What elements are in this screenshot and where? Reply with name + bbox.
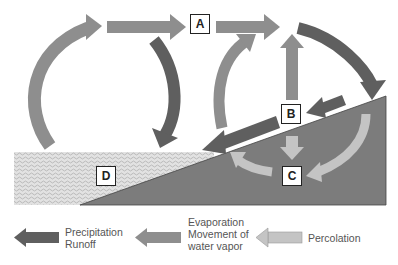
legend-light-arrow-icon [256,228,302,247]
legend-label: water vapor [188,240,249,252]
evaporation-arc-left-icon [34,14,102,146]
legend-label: Evaporation [188,216,249,228]
legend-dark-arrow-icon [14,228,59,247]
label-box-C: C [282,166,302,186]
label-box-A: A [190,14,210,34]
legend-label: Movement of [188,228,249,240]
ground-slope [80,96,386,205]
legend-item-evaporation: Evaporation Movement of water vapor [188,216,249,252]
legend-item-precipitation-runoff: Precipitation Runoff [65,226,123,250]
precipitation-arc-right-icon [298,28,386,100]
legend-label: Percolation [308,232,361,244]
vapor-arrow-from-B-icon [280,34,304,100]
legend-label: Runoff [65,238,123,250]
vapor-arrow-to-A-icon [107,14,186,40]
label-box-B: B [281,104,301,124]
legend-item-percolation: Percolation [308,232,361,244]
water-cycle-diagram: A B C D Precipitation Runoff Evaporation… [0,0,398,265]
precipitation-arc-left-icon [152,40,178,148]
legend-label: Precipitation [65,226,123,238]
legend-medium-arrow-icon [135,228,181,247]
label-box-D: D [96,166,116,186]
evaporation-arc-middle-icon [219,34,256,128]
